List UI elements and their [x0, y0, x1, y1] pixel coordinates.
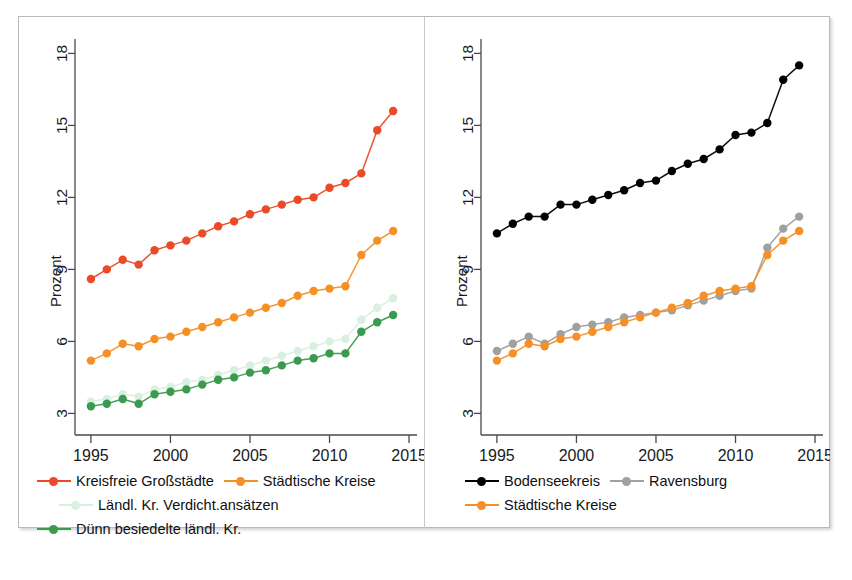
data-point: [373, 126, 381, 134]
data-point: [341, 335, 349, 343]
x-tick-label: 2010: [718, 447, 754, 464]
data-point: [763, 251, 771, 259]
x-tick-label: 2000: [153, 447, 189, 464]
x-tick-label: 2010: [312, 447, 348, 464]
data-point: [373, 304, 381, 312]
legend-row: BodenseekreisRavensburg: [443, 469, 833, 493]
data-point: [556, 335, 564, 343]
data-point: [278, 361, 286, 369]
legend-label: Dünn besiedelte ländl. Kr.: [76, 522, 241, 537]
y-tick-label: 3: [460, 409, 477, 418]
data-point: [731, 131, 739, 139]
data-point: [588, 328, 596, 336]
series-st-dtische-kreise: [87, 227, 398, 365]
data-point: [389, 107, 397, 115]
legend-item[interactable]: Kreisfreie Großstädte: [37, 474, 214, 489]
data-point: [325, 284, 333, 292]
legend-item[interactable]: Städtische Kreise: [224, 474, 376, 489]
data-point: [357, 328, 365, 336]
figure-frame: 36912151819952000200520102015 Prozent Kr…: [18, 16, 830, 528]
data-point: [652, 176, 660, 184]
x-tick-label: 1995: [479, 447, 515, 464]
data-point: [341, 179, 349, 187]
legend-right: BodenseekreisRavensburgStädtische Kreise: [443, 469, 833, 517]
data-point: [525, 340, 533, 348]
legend-marker-icon: [37, 474, 71, 488]
data-point: [246, 368, 254, 376]
data-point: [588, 320, 596, 328]
data-point: [747, 128, 755, 136]
chart-panel-right: 36912151819952000200520102015 Prozent Bo…: [424, 17, 829, 529]
legend-marker-icon: [465, 474, 499, 488]
y-tick-label: 15: [54, 117, 71, 134]
data-point: [246, 361, 254, 369]
legend-label: Bodenseekreis: [504, 474, 600, 489]
y-axis-label-right: Prozent: [453, 255, 470, 307]
data-point: [230, 373, 238, 381]
data-point: [795, 212, 803, 220]
y-tick-label: 6: [54, 337, 71, 346]
data-point: [134, 342, 142, 350]
data-point: [763, 119, 771, 127]
data-point: [604, 191, 612, 199]
data-point: [198, 229, 206, 237]
series-bodenseekreis: [493, 61, 804, 237]
data-point: [588, 196, 596, 204]
legend-label: Städtische Kreise: [504, 498, 617, 513]
data-point: [715, 287, 723, 295]
data-point: [182, 385, 190, 393]
data-point: [150, 335, 158, 343]
legend-row: Kreisfreie GroßstädteStädtische Kreise: [37, 469, 427, 493]
data-point: [373, 236, 381, 244]
data-point: [166, 241, 174, 249]
x-tick-label: 2005: [232, 447, 268, 464]
legend-left: Kreisfreie GroßstädteStädtische KreiseLä…: [37, 469, 427, 541]
data-point: [262, 366, 270, 374]
data-point: [150, 246, 158, 254]
legend-item[interactable]: Städtische Kreise: [465, 498, 617, 513]
data-point: [493, 229, 501, 237]
legend-item[interactable]: Bodenseekreis: [465, 474, 600, 489]
data-point: [715, 145, 723, 153]
data-point: [325, 184, 333, 192]
legend-marker-icon: [59, 498, 93, 512]
x-tick-label: 1995: [73, 447, 109, 464]
data-point: [262, 205, 270, 213]
data-point: [309, 342, 317, 350]
data-point: [325, 337, 333, 345]
legend-label: Städtische Kreise: [263, 474, 376, 489]
y-tick-label: 18: [54, 45, 71, 62]
legend-item[interactable]: Dünn besiedelte ländl. Kr.: [37, 522, 241, 537]
data-point: [389, 311, 397, 319]
data-point: [230, 217, 238, 225]
data-point: [357, 169, 365, 177]
data-point: [668, 167, 676, 175]
legend-item[interactable]: Ländl. Kr. Verdicht.ansätzen: [59, 498, 279, 513]
data-point: [389, 294, 397, 302]
data-point: [525, 332, 533, 340]
data-point: [87, 402, 95, 410]
legend-row: Dünn besiedelte ländl. Kr.: [37, 517, 427, 541]
legend-row: Städtische Kreise: [443, 493, 833, 517]
legend-marker-icon: [610, 474, 644, 488]
data-point: [540, 212, 548, 220]
data-point: [134, 400, 142, 408]
data-point: [294, 356, 302, 364]
data-point: [509, 340, 517, 348]
data-point: [763, 244, 771, 252]
data-point: [795, 61, 803, 69]
data-point: [493, 356, 501, 364]
data-point: [103, 400, 111, 408]
data-point: [572, 332, 580, 340]
data-point: [684, 160, 692, 168]
data-point: [620, 318, 628, 326]
data-point: [182, 378, 190, 386]
data-point: [262, 356, 270, 364]
legend-marker-icon: [224, 474, 258, 488]
data-point: [341, 349, 349, 357]
data-point: [182, 236, 190, 244]
data-point: [230, 313, 238, 321]
data-point: [87, 356, 95, 364]
legend-item[interactable]: Ravensburg: [610, 474, 727, 489]
x-tick-label: 2015: [391, 447, 424, 464]
